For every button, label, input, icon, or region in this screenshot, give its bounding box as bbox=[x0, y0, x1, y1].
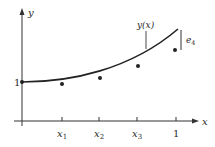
x-tick-label-1: x1 bbox=[57, 128, 67, 141]
x-axis-arrow-icon bbox=[192, 119, 199, 124]
y-axis-label: y bbox=[27, 7, 34, 18]
curve-start-dot bbox=[20, 80, 24, 84]
error-label: e4 bbox=[186, 35, 195, 47]
approx-point-2 bbox=[98, 76, 102, 80]
x-tick-label-4: 1 bbox=[173, 128, 179, 139]
y-axis-arrow-icon bbox=[20, 8, 25, 15]
approx-point-4 bbox=[173, 48, 177, 52]
diagram-canvas: y x 1 x1 x2 x3 1 y(x) e4 bbox=[0, 0, 215, 147]
x-axis-label: x bbox=[202, 116, 208, 127]
curve-y-of-x bbox=[22, 29, 178, 82]
x-tick-label-2: x2 bbox=[94, 128, 104, 141]
approx-point-3 bbox=[136, 64, 140, 68]
curve-label: y(x) bbox=[136, 20, 155, 30]
x-tick-label-3: x3 bbox=[132, 128, 142, 141]
y-tick-label: 1 bbox=[14, 77, 20, 88]
approx-point-1 bbox=[60, 82, 64, 86]
